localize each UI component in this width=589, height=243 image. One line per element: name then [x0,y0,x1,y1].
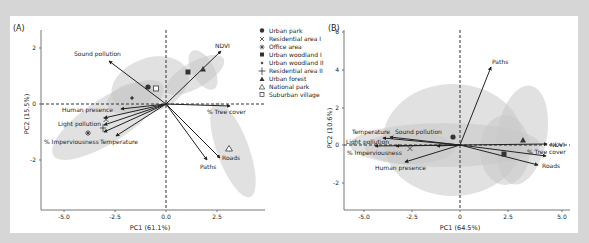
panel-a-label: (A) [13,24,25,33]
panel-a-ytick: -2 [30,156,36,163]
legend-item-suburban-village: Suburban village [269,91,320,99]
panel-b-label-temperature: Temperature [351,128,390,136]
panel-a-label-temperature: Temperature [99,138,138,146]
legend-marker-office-area [260,45,265,50]
panel-b-ytick: 4 [335,66,339,73]
panel-b-label-tree-cover: % Tree cover [527,148,566,155]
legend-item-urban-woodland-ii: Urban woodland II [269,59,324,66]
panel-a-label-light-pollution: Light pollution [58,120,101,128]
legend-marker-national-park [259,85,264,90]
panel-b-xtick: 0 [458,213,462,220]
legend-item-residential-i: Residential area I [269,35,321,42]
panel-a-ylabel: PC2 (15.5%) [23,94,31,134]
urban-woodland-i-marker [186,70,191,75]
panel-b-label-roads: Roads [542,162,560,169]
legend-item-urban-forest: Urban forest [269,75,307,82]
panel-a-xtick: 2.5 [212,213,222,220]
panel-a-xtick: -2.5 [109,213,121,220]
panel-a-ytick: 0 [32,100,36,107]
panel-a-xtick: -5.0 [58,213,70,220]
panel-b-ytick: 6 [335,28,339,35]
panel-a-label-tree-cover: % Tree cover [207,108,246,115]
panel-b-ytick: -2 [333,179,339,186]
legend-marker-urban-woodland-i [260,53,264,57]
panel-b-xlabel: PC1 (64.5%) [440,224,480,232]
panel-b-label-imperviousness: % Imperviousness [347,149,402,157]
panel-a-label-roads: Roads [222,154,240,161]
panel-a-ytick: 2 [32,44,36,51]
legend-marker-urban-park [260,28,264,32]
panel-b-ytick: 0 [335,141,339,148]
panel-a-label-paths: Paths [200,163,216,170]
panel-b-xtick: -2.5 [406,213,418,220]
panel-a-xtick: 0.0 [161,213,171,220]
panel-a-label-sound-pollution: Sound pollution [74,50,121,58]
suburban-village-marker [154,86,159,91]
legend-item-urban-woodland-i: Urban woodland I [269,51,322,58]
urban-park-marker [145,84,150,89]
panel-b-label-light-pollution: Light pollution [346,138,389,146]
panel-a-xlabel: PC1 (61.1%) [130,224,170,232]
panel-b-label-ndvi: NDVI [550,141,565,148]
panel-a: (A) -5.0 -2.5 0.0 2.5 2 0 [13,24,265,232]
panel-b: (B) -5.0 -2.5 0 2.5 5.0 [326,24,570,232]
legend-marker-urban-forest [260,77,265,82]
panel-b-xtick: -5.0 [358,213,370,220]
panel-a-label-imperviousness: % Imperviousness [44,138,99,146]
urban-park-marker [450,134,455,139]
panel-b-label-sound-pollution: Sound pollution [395,128,442,136]
legend-marker-residential-i [260,37,264,41]
panel-b-label-human-presence: Human presence [375,164,426,172]
legend-marker-urban-woodland-ii [261,62,264,65]
legend: Urban park Residential area I Office are… [259,27,324,99]
panel-b-label-paths: Paths [492,58,508,65]
panel-b-xtick: 5.0 [557,213,567,220]
legend-marker-suburban-village [260,93,264,97]
legend-item-urban-park: Urban park [269,27,303,35]
legend-marker-residential-ii [259,68,266,76]
panel-b-ytick: 2 [335,104,339,111]
urban-woodland-i-marker [502,152,507,157]
legend-item-office-area: Office area [269,43,302,50]
panel-b-ylabel: PC2 (10.6%) [326,108,334,148]
figure-svg: (A) -5.0 -2.5 0.0 2.5 2 0 [0,0,589,243]
legend-item-residential-ii: Residential area II [269,67,323,74]
panel-a-label-human-presence: Human presence [62,106,113,114]
panel-a-label-ndvi: NDVI [215,42,230,49]
panel-b-xtick: 2.5 [503,213,513,220]
legend-item-national-park: National park [269,83,310,91]
